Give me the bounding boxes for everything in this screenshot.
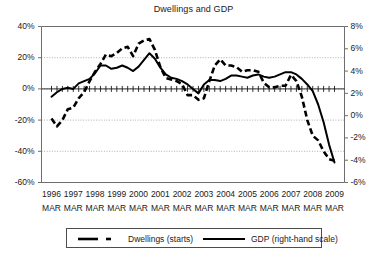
- legend-item-gdp: GDP (right-hand scale): [202, 229, 338, 249]
- y-axis-right-tick-label: -4%: [351, 155, 381, 165]
- legend-label-gdp: GDP (right-hand scale): [251, 234, 338, 244]
- legend-item-dwellings: Dwellings (starts): [77, 229, 193, 249]
- x-axis-month-label: MAR: [322, 203, 348, 213]
- y-axis-left-tick-label: 40%: [5, 21, 35, 31]
- legend-swatch-solid: [202, 234, 246, 244]
- y-axis-left-tick-label: -40%: [5, 146, 35, 156]
- chart-plot-area: [0, 0, 387, 259]
- legend-swatch-dashed: [77, 234, 123, 244]
- y-axis-right-tick-label: -2%: [351, 132, 381, 142]
- series-dwellings: [52, 39, 335, 161]
- y-axis-left-tick-label: -20%: [5, 115, 35, 125]
- y-axis-right-tick-label: 2%: [351, 88, 381, 98]
- chart-title: Dwellings and GDP: [0, 4, 387, 14]
- y-axis-left-tick-label: 20%: [5, 52, 35, 62]
- y-axis-left-tick-label: 0%: [5, 83, 35, 93]
- y-axis-right-tick-label: 0%: [351, 110, 381, 120]
- y-axis-right-tick-label: -6%: [351, 177, 381, 187]
- series-gdp: [52, 53, 335, 162]
- plot-frame: [42, 27, 345, 183]
- y-axis-right-tick-label: 6%: [351, 43, 381, 53]
- y-axis-right-tick-label: 4%: [351, 66, 381, 76]
- y-axis-left-tick-label: -60%: [5, 177, 35, 187]
- chart-legend: Dwellings (starts) GDP (right-hand scale…: [66, 228, 322, 248]
- gridlines: [42, 58, 345, 152]
- axis-ticks: [38, 27, 348, 183]
- legend-label-dwellings: Dwellings (starts): [128, 234, 193, 244]
- x-axis-year-label: 2009: [322, 189, 348, 199]
- y-axis-right-tick-label: 8%: [351, 21, 381, 31]
- chart-container: Dwellings and GDP 40%20%0%-20%-40%-60% 8…: [0, 0, 387, 259]
